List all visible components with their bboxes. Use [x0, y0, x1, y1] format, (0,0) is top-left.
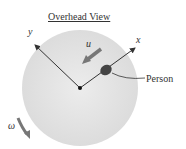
center-point: [78, 86, 82, 90]
x-axis-label: x: [136, 34, 140, 45]
omega-arrow-shaft: [18, 118, 27, 134]
person-label: Person: [146, 73, 173, 84]
velocity-label: u: [86, 38, 91, 49]
omega-label: ω: [8, 120, 15, 131]
diagram-title: Overhead View: [48, 11, 110, 22]
y-axis-label: y: [28, 26, 32, 37]
